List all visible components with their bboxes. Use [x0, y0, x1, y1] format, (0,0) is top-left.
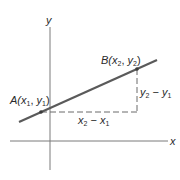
- rise-label: y2 − y1: [139, 86, 171, 99]
- slope-diagram: y x A(x1, y1) B(x2, y2) x2 − x1 y2 − y1: [0, 0, 180, 180]
- y-axis-label: y: [45, 14, 53, 26]
- point-a-marker: [39, 110, 43, 114]
- x-axis-label: x: [169, 135, 176, 147]
- point-b-label: B(x2, y2): [101, 54, 141, 67]
- run-label: x2 − x1: [77, 114, 109, 127]
- point-a-label: A(x1, y1): [9, 94, 50, 107]
- point-b-marker: [135, 67, 139, 71]
